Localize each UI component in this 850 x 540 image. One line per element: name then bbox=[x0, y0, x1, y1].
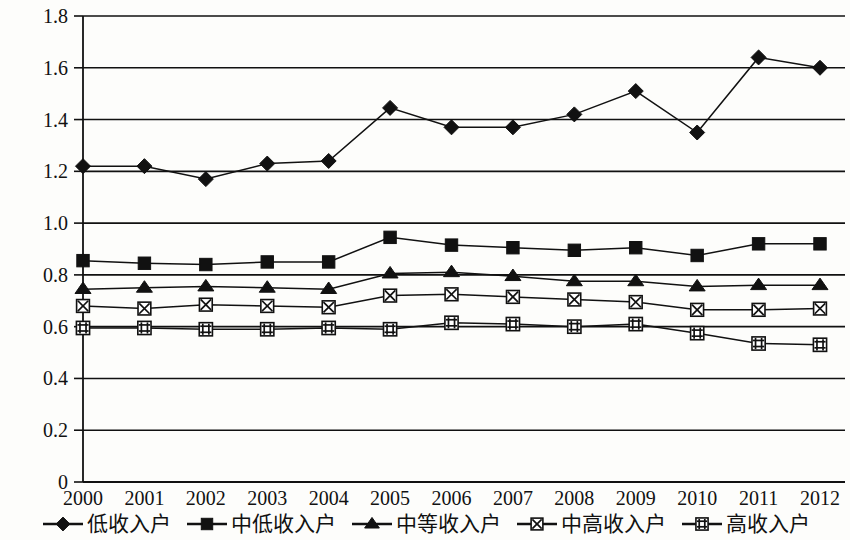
legend-label: 低收入户 bbox=[87, 514, 171, 535]
data-point-marker-hash-box bbox=[752, 337, 765, 350]
y-axis-label: 1.6 bbox=[43, 57, 68, 79]
data-point-marker-square bbox=[200, 258, 212, 270]
data-point-marker-square bbox=[261, 256, 273, 268]
x-axis-label: 2011 bbox=[739, 487, 778, 509]
y-axis-label: 1.0 bbox=[43, 212, 68, 234]
chart-plot-area: 00.20.40.60.81.01.21.41.61.8 20002001200… bbox=[0, 0, 850, 540]
data-point-marker-diamond bbox=[813, 60, 828, 75]
data-point-marker-hash-box bbox=[76, 321, 89, 334]
data-point-marker-hash-box bbox=[506, 317, 519, 330]
data-point-marker-triangle bbox=[364, 517, 379, 528]
x-axis-label: 2008 bbox=[554, 487, 594, 509]
data-point-marker-hash-box bbox=[445, 316, 458, 329]
y-axis-label: 0.8 bbox=[43, 264, 68, 286]
legend-label: 中等收入户 bbox=[396, 514, 501, 535]
data-point-marker-hash-box bbox=[813, 338, 826, 351]
legend-key-x-box-icon bbox=[515, 512, 559, 536]
x-axis-label: 2009 bbox=[616, 487, 656, 509]
data-point-marker-triangle bbox=[259, 281, 275, 293]
data-point-marker-square bbox=[384, 231, 396, 243]
data-point-marker-hash-box bbox=[383, 323, 396, 336]
data-point-marker-hash-box bbox=[568, 320, 581, 333]
x-axis-label: 2003 bbox=[247, 487, 287, 509]
data-point-marker-x-box bbox=[691, 303, 704, 316]
series-line bbox=[83, 57, 820, 179]
legend-label: 中低收入户 bbox=[231, 514, 336, 535]
legend-key-hash-box-icon bbox=[680, 512, 724, 536]
line-chart: 00.20.40.60.81.01.21.41.61.8 20002001200… bbox=[0, 0, 850, 540]
data-point-marker-x-box bbox=[384, 289, 397, 302]
series-x-box bbox=[77, 288, 827, 316]
x-axis-label: 2001 bbox=[124, 487, 164, 509]
data-point-marker-hash-box bbox=[691, 327, 704, 340]
y-axis-label: 0.6 bbox=[43, 316, 68, 338]
data-point-marker-square bbox=[201, 518, 212, 529]
y-axis-label: 0.2 bbox=[43, 419, 68, 441]
legend-key-diamond-icon bbox=[41, 512, 85, 536]
data-point-marker-triangle bbox=[75, 282, 91, 294]
x-axis-label: 2004 bbox=[309, 487, 349, 509]
y-axis bbox=[74, 16, 83, 482]
legend-item-0[interactable]: 低收入户 bbox=[41, 512, 171, 536]
data-point-marker-x-box bbox=[199, 298, 212, 311]
data-point-marker-diamond bbox=[198, 172, 213, 187]
data-point-marker-triangle bbox=[136, 281, 152, 293]
data-point-marker-diamond bbox=[628, 84, 643, 99]
data-point-marker-x-box bbox=[752, 303, 765, 316]
data-point-marker-hash-box bbox=[261, 323, 274, 336]
data-point-marker-x-box bbox=[322, 301, 335, 314]
data-point-marker-hash-box bbox=[199, 323, 212, 336]
legend-label: 高收入户 bbox=[726, 514, 810, 535]
x-axis-label: 2007 bbox=[493, 487, 533, 509]
data-point-marker-x-box bbox=[814, 302, 827, 315]
data-point-marker-hash-box bbox=[322, 321, 335, 334]
data-point-marker-square bbox=[691, 249, 703, 261]
data-point-marker-square bbox=[138, 257, 150, 269]
x-axis-label: 2006 bbox=[432, 487, 472, 509]
data-point-marker-hash-box bbox=[138, 321, 151, 334]
data-point-marker-square bbox=[752, 238, 764, 250]
data-point-marker-square bbox=[322, 256, 334, 268]
data-series-group bbox=[75, 50, 828, 351]
data-point-marker-square bbox=[630, 242, 642, 254]
x-axis-label: 2012 bbox=[800, 487, 840, 509]
y-axis-label: 0.4 bbox=[43, 367, 68, 389]
x-axis-label: 2000 bbox=[63, 487, 103, 509]
data-point-marker-hash-box bbox=[629, 317, 642, 330]
series-diamond bbox=[76, 50, 828, 187]
data-point-marker-x-box bbox=[531, 518, 543, 530]
data-point-marker-diamond bbox=[444, 120, 459, 135]
data-point-marker-triangle bbox=[689, 279, 705, 291]
legend-item-1[interactable]: 中低收入户 bbox=[185, 512, 336, 536]
data-point-marker-triangle bbox=[812, 278, 828, 290]
legend-key-triangle-icon bbox=[350, 512, 394, 536]
y-axis-label: 1.2 bbox=[43, 160, 68, 182]
data-point-marker-diamond bbox=[260, 156, 275, 171]
x-axis-tick-labels: 2000200120022003200420052006200720082009… bbox=[63, 487, 840, 509]
data-point-marker-x-box bbox=[568, 293, 581, 306]
data-point-marker-diamond bbox=[56, 517, 70, 531]
data-point-marker-x-box bbox=[445, 288, 458, 301]
legend-label: 中高收入户 bbox=[561, 514, 666, 535]
data-point-marker-triangle bbox=[198, 279, 214, 291]
data-point-marker-x-box bbox=[629, 296, 642, 309]
legend-item-4[interactable]: 高收入户 bbox=[680, 512, 810, 536]
data-point-marker-square bbox=[814, 238, 826, 250]
data-point-marker-square bbox=[507, 242, 519, 254]
data-point-marker-square bbox=[445, 239, 457, 251]
data-point-marker-x-box bbox=[261, 300, 274, 313]
x-axis-label: 2005 bbox=[370, 487, 410, 509]
series-hash-box bbox=[76, 316, 826, 351]
legend-key-square-icon bbox=[185, 512, 229, 536]
data-point-marker-square bbox=[77, 254, 89, 266]
data-point-marker-diamond bbox=[505, 120, 520, 135]
x-axis-label: 2010 bbox=[677, 487, 717, 509]
legend-item-2[interactable]: 中等收入户 bbox=[350, 512, 501, 536]
data-point-marker-triangle bbox=[566, 274, 582, 286]
data-point-marker-triangle bbox=[628, 274, 644, 286]
legend-item-3[interactable]: 中高收入户 bbox=[515, 512, 666, 536]
data-point-marker-hash-box bbox=[695, 518, 707, 530]
chart-legend: 低收入户中低收入户中等收入户中高收入户高收入户 bbox=[0, 508, 850, 540]
data-point-marker-triangle bbox=[751, 278, 767, 290]
y-axis-tick-labels: 00.20.40.60.81.01.21.41.61.8 bbox=[43, 5, 68, 493]
